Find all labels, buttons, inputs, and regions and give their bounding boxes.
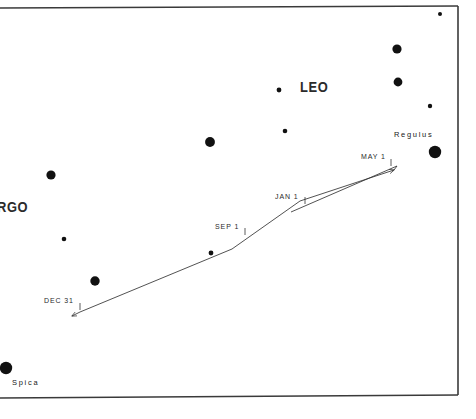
star-dot <box>90 276 99 285</box>
chart-frame <box>0 6 458 398</box>
star-dot <box>394 78 403 87</box>
star-dot <box>277 88 282 93</box>
planet-track-main <box>80 170 394 312</box>
star-dot <box>438 12 442 16</box>
planet-track-retrograde <box>291 166 397 212</box>
star-dot <box>429 146 441 158</box>
frame-bottom-edge <box>0 395 458 398</box>
star-dot <box>283 129 288 134</box>
star-dot <box>62 237 67 242</box>
date-tick-marks <box>80 159 391 310</box>
star-field <box>0 12 442 374</box>
star-dot <box>205 137 215 147</box>
planet-track-start-arrow <box>72 312 80 316</box>
sky-canvas <box>0 0 476 419</box>
star-dot <box>0 362 12 374</box>
star-dot <box>46 170 55 179</box>
star-dot <box>209 251 214 256</box>
star-dot <box>428 104 432 108</box>
frame-top-edge <box>0 6 458 8</box>
planet-path <box>72 166 397 316</box>
star-chart-figure: LEO RGO Regulus Spica DEC 31 SEP 1 JAN 1… <box>0 0 476 419</box>
star-dot <box>392 44 401 53</box>
